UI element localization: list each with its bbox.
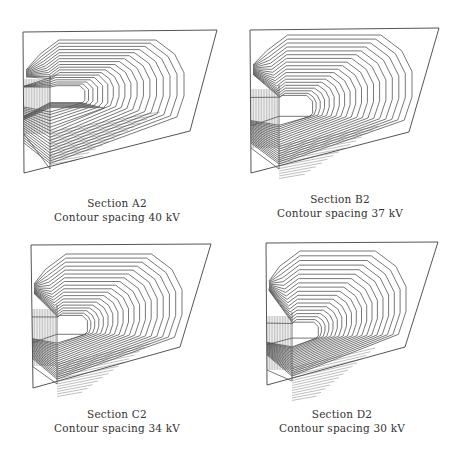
contour-line [253,62,367,118]
section-title: Section C2 [7,407,227,421]
contour-line [279,95,313,116]
contour-line [292,322,318,338]
contour-line [253,72,345,117]
contour-panel-a2 [23,30,217,173]
panel-caption-d2: Section D2 Contour spacing 30 kV [232,407,452,435]
contour-line [34,292,108,334]
section-title: Section D2 [232,407,452,421]
contour-line [50,86,85,103]
contour-spacing-caption: Contour spacing 34 kV [7,421,227,435]
contour-line [269,270,383,335]
contour-spacing-caption: Contour spacing 37 kV [230,206,450,220]
section-title: Section B2 [230,192,450,206]
contour-spacing-caption: Contour spacing 40 kV [7,210,227,224]
contour-line [253,66,362,118]
contour-line [34,291,118,335]
contour-panel-b2 [250,28,439,179]
contour-panel-c2 [31,244,211,397]
contour-spacing-caption: Contour spacing 30 kV [232,421,452,435]
panel-caption-c2: Section C2 Contour spacing 34 kV [7,407,227,435]
contour-line [50,84,89,103]
contour-panel-d2 [266,242,438,401]
section-title: Section A2 [7,196,227,210]
contour-figure [0,0,457,467]
panel-caption-a2: Section A2 Contour spacing 40 kV [7,196,227,224]
contour-line [57,315,87,334]
contour-line [253,71,350,117]
panel-caption-b2: Section B2 Contour spacing 37 kV [230,192,450,220]
contour-line [269,290,329,337]
contour-line [269,286,362,336]
